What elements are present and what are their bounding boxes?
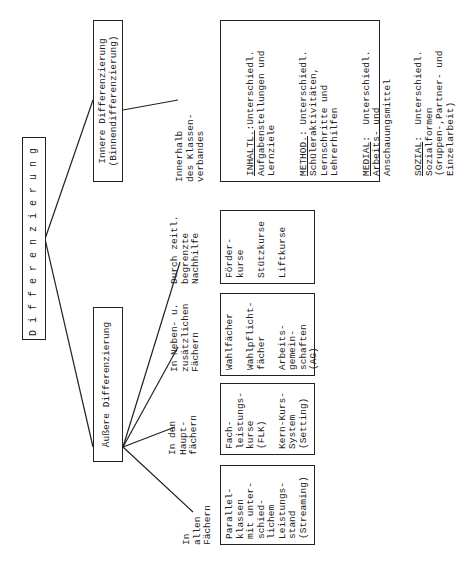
box-leistungskurse: Fach- leistungs- kurse (FLK) Kern-Kurs- … — [220, 383, 315, 455]
box-binnendifferenzierung: INHALTL.:Unterschiedl. Aufgabenstellunge… — [220, 20, 380, 182]
label-klassenverband: Innerhalb des Klassen- verbandes — [175, 114, 207, 182]
innere-label: Innere Differenzierung — [97, 21, 108, 181]
root-node: Differenzierung — [22, 137, 46, 340]
item-key: SOZIAL — [413, 142, 424, 176]
root-label: Differenzierung — [28, 141, 39, 336]
box-wahlfaecher: Wahlfächer Wahlpflicht- fächer Arbeits- … — [220, 293, 315, 376]
item-key: MEDIAL — [361, 142, 372, 176]
innere-differenzierung-node: Innere Differenzierung (Binnendifferenzi… — [93, 20, 123, 182]
aeussere-differenzierung-node: Äußere Differenzierung — [93, 307, 123, 462]
innere-sublabel: (Binnendifferenzierung) — [108, 21, 119, 181]
box-foerderkurse: Förder- kurse Stützkurse Liftkurse — [220, 210, 315, 284]
item-medial: MEDIAL: Unterschiedl. Arbeits- und Ansch… — [362, 26, 394, 176]
label-nebenfaecher: In Neben- u. zusätzlichen Fächern — [170, 304, 202, 372]
label-hauptfaecher: In den Haupt- fächern — [168, 415, 200, 455]
item-inhaltlich: INHALTL.:Unterschiedl. Aufgabenstellunge… — [246, 26, 278, 176]
item-methodisch: METHOD.: Unterschiedl. Schüleraktivitäte… — [299, 26, 341, 176]
box-streaming: Parallel- klassen mit unter- schied- lic… — [220, 465, 315, 545]
label-nachhilfe: Durch zeitl. begrenzte Nachhilfe — [170, 216, 202, 284]
label-alle-faecher: In allen Fächern — [182, 505, 214, 545]
item-sozial: SOZIAL: Unterschiedl. Sozialformen (Grup… — [414, 26, 456, 176]
aeussere-label: Äußere Differenzierung — [101, 322, 112, 447]
item-key: METHOD. — [298, 136, 309, 176]
item-key: INHALTL. — [245, 130, 256, 176]
